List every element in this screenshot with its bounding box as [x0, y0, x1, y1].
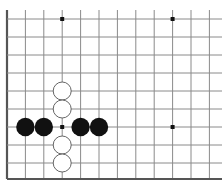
- go-board: [0, 0, 222, 184]
- board-grid: [7, 10, 222, 179]
- white-stone: [53, 154, 71, 172]
- black-stone: [35, 118, 53, 136]
- star-point-icon: [171, 17, 175, 21]
- black-stone: [16, 118, 34, 136]
- star-point-icon: [60, 17, 64, 21]
- star-point-icon: [60, 125, 64, 129]
- white-stone: [53, 100, 71, 118]
- black-stone: [90, 118, 108, 136]
- black-stone: [71, 118, 89, 136]
- star-point-icon: [171, 125, 175, 129]
- white-stone: [53, 136, 71, 154]
- white-stone: [53, 82, 71, 100]
